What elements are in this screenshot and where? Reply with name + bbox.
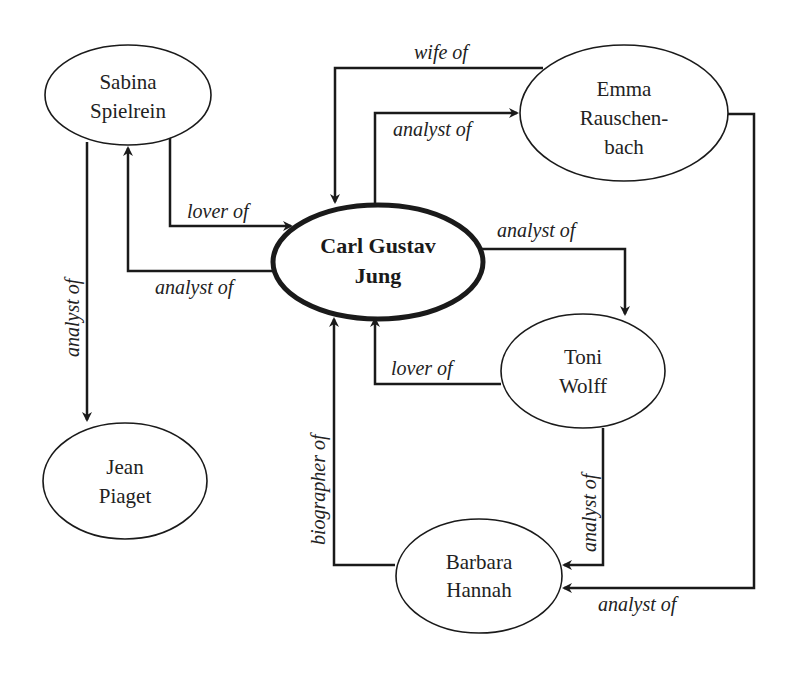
edge-label-wife-of: wife of (414, 41, 470, 64)
node-label: Jean (106, 455, 144, 479)
node-jean-piaget: Jean Piaget (43, 423, 207, 539)
edge-label-analyst-of: analyst of (155, 276, 236, 299)
edge-label-analyst-of: analyst of (61, 276, 84, 357)
node-sabina-spielrein: Sabina Spielrein (45, 45, 211, 145)
edge-label-lover-of: lover of (391, 357, 455, 380)
node-label: bach (604, 135, 644, 159)
node-label: Piaget (99, 484, 152, 508)
edge-label-biographer-of: biographer of (307, 432, 330, 545)
node-label: Carl Gustav (320, 233, 436, 258)
edge-label-analyst-of: analyst of (578, 471, 601, 552)
node-label: Barbara (446, 550, 513, 574)
node-label: Jung (355, 263, 401, 288)
relationship-diagram: Sabina Spielrein Carl Gustav Jung Emma R… (0, 0, 799, 674)
edge-label-analyst-of: analyst of (497, 219, 578, 242)
edge-label-lover-of: lover of (187, 200, 251, 223)
node-label: Rauschen- (580, 106, 669, 130)
node-barbara-hannah: Barbara Hannah (396, 519, 562, 633)
edge-barbara-biographer-jung (334, 319, 395, 565)
node-toni-wolff: Toni Wolff (501, 314, 665, 428)
node-label: Wolff (559, 374, 607, 398)
node-label: Spielrein (90, 99, 166, 123)
node-label: Emma (597, 77, 652, 101)
node-label: Sabina (99, 70, 157, 94)
edge-label-analyst-of: analyst of (393, 118, 474, 141)
edge-jung-analyst-toni (481, 249, 625, 314)
node-label: Toni (564, 345, 602, 369)
node-label: Hannah (446, 578, 512, 602)
edge-label-analyst-of: analyst of (598, 593, 679, 616)
node-emma-rauschenbach: Emma Rauschen- bach (520, 45, 728, 181)
node-carl-gustav-jung: Carl Gustav Jung (273, 205, 483, 319)
